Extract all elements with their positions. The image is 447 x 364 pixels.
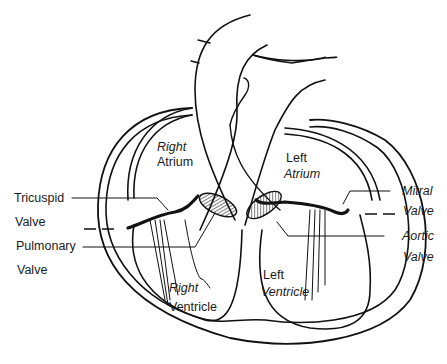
left-atrium-label-line2: Atrium <box>284 168 320 181</box>
left-ventricle-label-line1: Left <box>263 269 284 282</box>
left-atrium-label-line1: Left <box>286 152 307 165</box>
right-atrium-label-line2: Atrium <box>157 156 193 169</box>
aortic-valve-leaflets <box>242 186 285 224</box>
aortic-valve-label-line1: Aortic <box>402 230 434 243</box>
right-atrium-label-line1: Right <box>157 141 186 154</box>
pulmonary-valve-label-line2: Valve <box>17 264 47 277</box>
mitral-valve-label-line1: Mitral <box>402 185 433 198</box>
aortic-valve-label-line2: Valve <box>403 251 434 264</box>
heart-diagram <box>0 0 447 364</box>
pulmonary-valve-label-line1: Pulmonary <box>16 240 76 253</box>
leader-lines <box>72 191 390 247</box>
tricuspid-valve-label-line2: Valve <box>15 216 45 229</box>
mitral-valve-label-line2: Valve <box>403 205 434 218</box>
right-ventricle-label-line1: Right <box>169 282 198 295</box>
left-ventricle-label-line2: Ventricle <box>261 286 309 299</box>
pulmonary-valve-leaflets <box>196 188 240 221</box>
right-ventricle-label-line2: Ventricle <box>169 301 217 314</box>
tricuspid-valve-label-line1: Tricuspid <box>14 192 64 205</box>
